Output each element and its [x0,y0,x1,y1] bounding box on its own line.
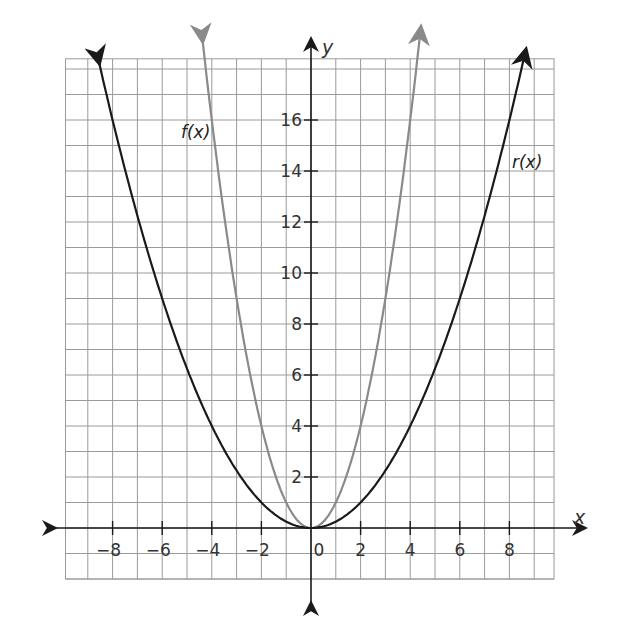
chart: −8−6−4−202468246810121416xyf(x)r(x) [0,0,621,635]
y-tick-label: 6 [291,365,302,385]
y-tick-label: 4 [291,416,302,436]
x-tick-label: 6 [454,540,465,560]
y-tick-label: 10 [280,263,302,283]
f-label: f(x) [181,122,210,142]
y-tick-label: 14 [280,161,302,181]
axes [50,44,580,608]
x-tick-label: 4 [405,540,416,560]
grid [65,59,554,579]
x-tick-label: −6 [146,540,171,560]
y-tick-label: 2 [291,467,302,487]
y-tick-label: 12 [280,212,302,232]
x-tick-label: −4 [195,540,220,560]
y-tick-label: 8 [291,314,302,334]
r-label: r(x) [512,152,542,172]
y-axis-label: y [321,36,334,58]
x-tick-label: 2 [355,540,366,560]
x-tick-label: 0 [314,540,325,560]
x-tick-label: 8 [504,540,515,560]
x-axis-label: x [573,506,586,528]
x-tick-label: −8 [96,540,121,560]
x-tick-label: −2 [245,540,270,560]
y-tick-label: 16 [280,110,302,130]
